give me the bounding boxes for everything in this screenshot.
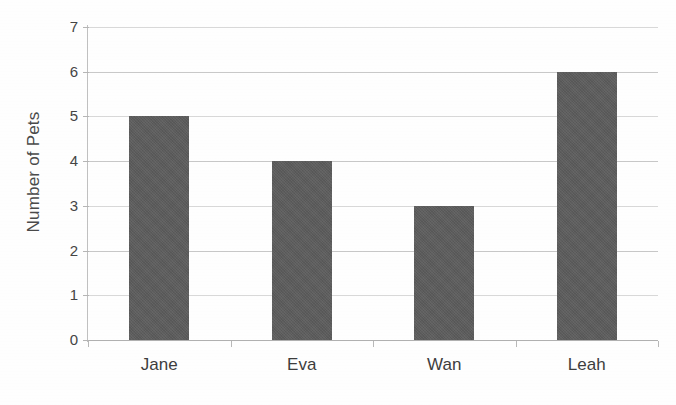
y-tick-label-2: 2 <box>54 242 78 259</box>
y-tick-label-5: 5 <box>54 107 78 124</box>
y-tick-mark-6 <box>83 72 89 73</box>
y-tick-mark-0 <box>83 340 89 341</box>
y-tick-mark-3 <box>83 206 89 207</box>
y-tick-mark-4 <box>83 161 89 162</box>
bar-chart-figure: Number of Pets 01234567 JaneEvaWanLeah <box>0 0 676 405</box>
x-tick-mark-0 <box>88 341 89 347</box>
x-tick-label-wan: Wan <box>384 355 504 375</box>
x-tick-label-jane: Jane <box>99 355 219 375</box>
y-tick-label-3: 3 <box>54 197 78 214</box>
y-tick-label-4: 4 <box>54 152 78 169</box>
y-tick-label-7: 7 <box>54 18 78 35</box>
x-tick-mark-1 <box>231 341 232 347</box>
y-tick-label-6: 6 <box>54 63 78 80</box>
bar-leah <box>557 72 617 340</box>
y-tick-label-1: 1 <box>54 286 78 303</box>
x-tick-mark-4 <box>658 341 659 347</box>
y-tick-mark-7 <box>83 27 89 28</box>
bar-wan <box>414 206 474 340</box>
y-tick-label-0: 0 <box>54 331 78 348</box>
x-tick-label-leah: Leah <box>527 355 647 375</box>
x-tick-label-eva: Eva <box>242 355 362 375</box>
y-tick-mark-1 <box>83 295 89 296</box>
y-tick-mark-2 <box>83 251 89 252</box>
bar-jane <box>129 116 189 340</box>
y-axis-tick-labels: 01234567 <box>40 27 78 340</box>
bar-eva <box>272 161 332 340</box>
x-tick-mark-2 <box>373 341 374 347</box>
x-tick-mark-3 <box>516 341 517 347</box>
y-tick-mark-5 <box>83 116 89 117</box>
gridline-7 <box>88 27 658 28</box>
plot-area <box>88 27 658 340</box>
